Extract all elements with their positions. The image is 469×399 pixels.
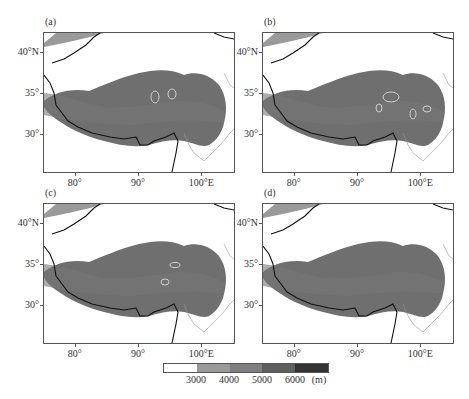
x-tick-label: 100°E [181, 348, 221, 359]
x-tick-mark [75, 343, 76, 347]
y-tick-label: 35° [3, 87, 39, 98]
colorbar-segment-5 [295, 364, 328, 372]
colorbar [163, 363, 329, 373]
y-tick-mark [259, 134, 263, 135]
y-tick-label: 40°N [3, 217, 39, 228]
x-tick-mark [294, 172, 295, 176]
colorbar-tick-6000: 6000 [285, 374, 305, 385]
y-tick-mark [40, 264, 44, 265]
map-panel-d [262, 203, 454, 344]
x-tick-mark [357, 172, 358, 176]
map-panel-c [43, 203, 235, 344]
colorbar-tick-5000: 5000 [252, 374, 272, 385]
x-tick-label: 80° [55, 348, 95, 359]
panel-label-a: (a) [45, 16, 56, 27]
x-tick-label: 90° [118, 348, 158, 359]
x-tick-label: 80° [274, 348, 314, 359]
x-tick-mark [138, 172, 139, 176]
panel-label-c: (c) [45, 187, 56, 198]
x-tick-mark [75, 172, 76, 176]
y-tick-label: 30° [3, 299, 39, 310]
y-tick-label: 40°N [222, 217, 258, 228]
y-tick-mark [40, 305, 44, 306]
y-tick-mark [259, 223, 263, 224]
map-panel-b [262, 32, 454, 173]
colorbar-tick-4000: 4000 [219, 374, 239, 385]
y-tick-mark [40, 223, 44, 224]
y-tick-mark [40, 134, 44, 135]
map-panel-a [43, 32, 235, 173]
x-tick-mark [201, 343, 202, 347]
colorbar-unit: (m) [312, 374, 326, 385]
colorbar-segment-4 [262, 364, 295, 372]
x-tick-label: 90° [118, 177, 158, 188]
x-tick-label: 100°E [400, 348, 440, 359]
x-tick-label: 90° [337, 177, 377, 188]
x-tick-mark [420, 172, 421, 176]
y-tick-label: 35° [222, 87, 258, 98]
y-tick-label: 40°N [222, 46, 258, 57]
y-tick-label: 30° [222, 128, 258, 139]
x-tick-mark [201, 172, 202, 176]
x-tick-label: 80° [274, 177, 314, 188]
x-tick-label: 100°E [181, 177, 221, 188]
x-tick-mark [420, 343, 421, 347]
y-tick-mark [259, 264, 263, 265]
y-tick-mark [40, 93, 44, 94]
x-tick-mark [357, 343, 358, 347]
y-tick-label: 30° [222, 299, 258, 310]
colorbar-tick-3000: 3000 [186, 374, 206, 385]
colorbar-segment-2 [197, 364, 230, 372]
y-tick-mark [259, 305, 263, 306]
colorbar-segment-3 [230, 364, 263, 372]
y-tick-mark [259, 52, 263, 53]
x-tick-label: 90° [337, 348, 377, 359]
y-tick-label: 35° [222, 258, 258, 269]
y-tick-label: 35° [3, 258, 39, 269]
x-tick-label: 80° [55, 177, 95, 188]
y-tick-mark [40, 52, 44, 53]
x-tick-mark [294, 343, 295, 347]
panel-label-d: (d) [264, 187, 276, 198]
y-tick-label: 40°N [3, 46, 39, 57]
x-tick-mark [138, 343, 139, 347]
y-tick-mark [259, 93, 263, 94]
panel-label-b: (b) [264, 16, 276, 27]
colorbar-segment-1 [164, 364, 197, 372]
y-tick-label: 30° [3, 128, 39, 139]
x-tick-label: 100°E [400, 177, 440, 188]
